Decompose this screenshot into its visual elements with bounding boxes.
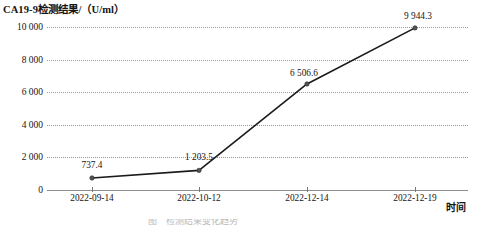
x-axis-title: 时间: [446, 199, 466, 214]
figure-caption-clipped: 图 检测结果变化趋势: [0, 219, 478, 227]
point-label-2: 6 506.6: [290, 68, 318, 78]
data-point-1: [197, 168, 201, 172]
point-label-3: 9 944.3: [404, 11, 432, 21]
series-line: [92, 28, 415, 178]
series-markers: [90, 26, 417, 180]
figure-caption-text: 图 检测结果变化趋势: [148, 219, 238, 227]
data-point-3: [413, 26, 417, 30]
series-line-group: [0, 0, 478, 227]
data-point-2: [305, 82, 309, 86]
data-point-0: [90, 176, 94, 180]
point-label-0: 737.4: [82, 160, 103, 170]
line-chart: CA19-9检测结果/（U/ml） 10 000 8 000 6 000 4 0…: [0, 0, 478, 227]
point-label-1: 1 203.5: [185, 152, 213, 162]
